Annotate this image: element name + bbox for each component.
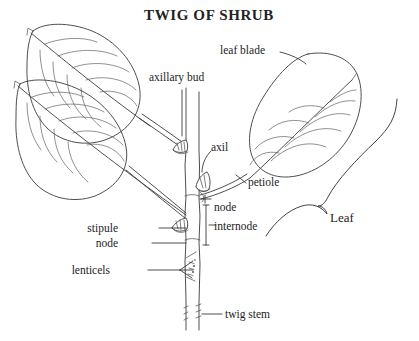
vein [40, 50, 54, 96]
leader-leaf-blade [280, 52, 306, 64]
diagram-canvas: TWIG OF SHRUB [0, 0, 419, 341]
lenticel-dot [194, 259, 196, 261]
leaf-lower-left-petiole-b [129, 166, 186, 213]
vein [269, 120, 309, 130]
label-axillary-bud: axillary bud [149, 71, 204, 84]
twig-of-shrub-diagram: TWIG OF SHRUB [0, 0, 419, 341]
lenticel-mark [186, 277, 195, 281]
vein [81, 88, 101, 127]
leaf-upper-left-blade [27, 24, 140, 143]
leader-node-upper [200, 195, 211, 203]
vein [330, 90, 356, 102]
vein [271, 144, 326, 161]
label-lenticels: lenticels [72, 264, 111, 276]
leaf-right-blade [249, 53, 361, 177]
label-stipule: stipule [87, 222, 118, 235]
stem-break-marks-right [196, 304, 201, 318]
node-ridge-upper [185, 195, 199, 197]
vein [68, 142, 88, 182]
leaf-lower-left [14, 80, 186, 218]
node-ridge-lower [185, 239, 200, 241]
leaf-upper-left-midrib [31, 33, 150, 126]
label-internode: internode [214, 220, 257, 232]
leaf-upper-left [27, 24, 185, 149]
label-leaf-blade: leaf blade [220, 44, 265, 56]
label-petiole: petiole [248, 176, 279, 189]
vein [27, 103, 41, 150]
label-node-lower: node [96, 237, 118, 249]
lenticel-dot [193, 265, 195, 267]
figure-title: TWIG OF SHRUB [144, 7, 274, 23]
lenticels-group [186, 252, 196, 281]
label-leaf-bracket: Leaf [330, 210, 354, 225]
leaf-lower-left-petiole-a [126, 170, 185, 218]
leader-lenticels-fan [180, 261, 193, 278]
lenticel-mark [186, 252, 196, 258]
leaf-upper-left-petiole-b [142, 114, 185, 144]
stem-left-edge [185, 88, 186, 330]
label-twig-stem: twig stem [225, 308, 270, 321]
label-axil: axil [211, 141, 228, 153]
vein [45, 38, 97, 44]
vein [67, 75, 86, 119]
leaf-right [200, 53, 361, 202]
vein [32, 92, 84, 97]
axillary-bud-middle [196, 172, 210, 191]
bud-scale-outer [196, 172, 210, 191]
axillary-bud-upper [173, 140, 188, 154]
leader-axil [202, 151, 211, 172]
leaf-right-petiole-base [200, 192, 204, 202]
vein [289, 106, 324, 112]
twig-stem-group [184, 88, 201, 330]
vein [72, 63, 129, 72]
stem-right-edge [199, 92, 200, 330]
bud-scale-outer [173, 140, 188, 152]
vein [87, 144, 124, 161]
leader-petiole [236, 175, 246, 183]
leaf-right-tip [352, 74, 356, 80]
lenticel-dot [192, 271, 194, 273]
vein [58, 50, 117, 56]
label-node-upper: node [214, 201, 236, 213]
vein [255, 136, 294, 149]
vein [100, 91, 137, 106]
